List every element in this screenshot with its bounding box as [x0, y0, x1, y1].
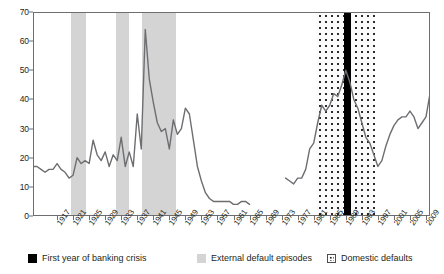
y-tick-mark	[29, 99, 33, 100]
legend-item-crisis: First year of banking crisis	[28, 253, 147, 263]
y-tick-label: 40	[20, 94, 29, 104]
y-tick-label: 50	[20, 65, 29, 75]
legend-label: External default episodes	[211, 253, 312, 263]
legend-item-external: External default episodes	[197, 253, 312, 263]
y-tick-mark	[29, 186, 33, 187]
y-tick-label: 20	[20, 153, 29, 163]
y-tick-label: 30	[20, 124, 29, 134]
y-tick-mark	[29, 157, 33, 158]
legend-swatch-domestic-icon	[327, 254, 336, 263]
y-tick-mark	[29, 70, 33, 71]
plot-frame	[33, 12, 430, 216]
legend-swatch-external-icon	[197, 254, 206, 263]
y-tick-mark	[29, 128, 33, 129]
y-tick-mark	[29, 216, 33, 217]
y-tick-label: 10	[20, 182, 29, 192]
y-tick-mark	[29, 12, 33, 13]
legend-swatch-crisis-icon	[28, 254, 37, 263]
legend-label: First year of banking crisis	[42, 253, 147, 263]
y-tick-mark	[29, 41, 33, 42]
legend-item-domestic: Domestic defaults	[327, 253, 413, 263]
chart-container: 010203040506070 191719211925192919331937…	[0, 0, 444, 274]
legend-label: Domestic defaults	[341, 253, 413, 263]
y-tick-label: 60	[20, 36, 29, 46]
y-tick-label: 70	[20, 7, 29, 17]
chart-legend: First year of banking crisisExternal def…	[0, 253, 444, 269]
plot-area: 010203040506070	[33, 12, 430, 216]
